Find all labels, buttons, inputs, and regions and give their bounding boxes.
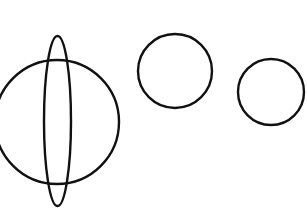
vertical-lens-ellipse (44, 36, 71, 206)
shapes-drawing (0, 0, 307, 211)
large-circle (0, 60, 119, 184)
middle-circle (138, 34, 212, 108)
figure-canvas (0, 0, 307, 211)
right-circle (238, 59, 304, 125)
